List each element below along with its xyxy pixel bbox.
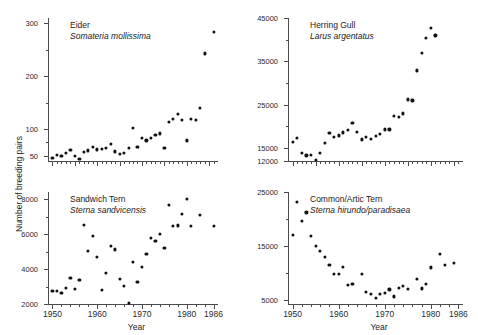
data-point xyxy=(185,197,188,200)
y-tick-minor xyxy=(46,252,48,253)
x-tick-minor xyxy=(449,162,450,164)
x-tick xyxy=(97,162,98,166)
x-tick-minor xyxy=(106,162,107,164)
x-tick-minor xyxy=(70,305,71,307)
x-tick-minor xyxy=(124,162,125,164)
data-point xyxy=(190,118,193,121)
data-point xyxy=(305,154,308,157)
x-tick xyxy=(454,162,455,166)
x-tick-minor xyxy=(440,162,441,164)
y-tick-minor xyxy=(46,142,48,143)
x-tick-minor xyxy=(348,305,349,307)
data-point xyxy=(199,213,202,216)
data-point xyxy=(420,287,423,290)
x-tick xyxy=(209,162,210,166)
x-tick-label: 1970 xyxy=(375,309,394,319)
x-tick-minor xyxy=(348,162,349,164)
data-point xyxy=(411,99,414,102)
data-point xyxy=(406,98,409,101)
data-point xyxy=(337,134,340,137)
x-tick-minor xyxy=(196,305,197,307)
data-point xyxy=(105,147,108,150)
data-point xyxy=(332,135,335,138)
data-point xyxy=(392,114,395,117)
data-point xyxy=(109,244,112,247)
data-point xyxy=(158,233,161,236)
x-tick-minor xyxy=(343,162,344,164)
data-point xyxy=(176,112,179,115)
data-point xyxy=(429,266,432,269)
panel-title-common-name: Herring Gull xyxy=(310,20,355,30)
y-tick-label: 12000 xyxy=(257,157,284,166)
data-point xyxy=(51,156,54,159)
x-tick xyxy=(52,162,53,166)
data-point xyxy=(145,139,148,142)
x-tick xyxy=(408,162,409,166)
x-tick-minor xyxy=(412,305,413,307)
data-point xyxy=(55,289,58,292)
data-point xyxy=(374,296,377,299)
x-tick-minor xyxy=(79,305,80,307)
x-tick-minor xyxy=(357,162,358,164)
x-tick-minor xyxy=(61,162,62,164)
x-tick xyxy=(142,162,143,166)
data-point xyxy=(100,147,103,150)
x-tick-minor xyxy=(440,305,441,307)
data-point xyxy=(96,256,99,259)
data-point xyxy=(406,287,409,290)
data-point xyxy=(203,52,206,55)
data-point xyxy=(154,239,157,242)
data-point xyxy=(64,151,67,154)
data-point xyxy=(60,291,63,294)
data-point xyxy=(122,151,125,154)
data-point xyxy=(443,263,446,266)
x-tick xyxy=(75,162,76,166)
y-tick-minor xyxy=(46,217,48,218)
x-tick-minor xyxy=(205,162,206,164)
x-tick-minor xyxy=(151,162,152,164)
x-tick-label: 1970 xyxy=(132,309,151,319)
data-point xyxy=(328,263,331,266)
data-point xyxy=(78,278,81,281)
y-tick-label: 200 xyxy=(25,72,44,81)
y-axis-title: Number of breeding pairs xyxy=(14,136,24,232)
data-point xyxy=(145,252,148,255)
y-tick xyxy=(284,61,288,62)
y-tick-label: 4000 xyxy=(21,265,44,274)
x-tick-minor xyxy=(320,305,321,307)
data-point xyxy=(300,219,303,222)
x-tick-minor xyxy=(334,162,335,164)
x-tick xyxy=(164,162,165,166)
x-tick-minor xyxy=(88,305,89,307)
data-point xyxy=(194,119,197,122)
y-tick-minor xyxy=(286,83,288,84)
data-point xyxy=(73,154,76,157)
x-tick-label: 1960 xyxy=(88,309,107,319)
data-point xyxy=(140,136,143,139)
panel-title-common-name: Eider xyxy=(70,20,90,30)
data-point xyxy=(100,288,103,291)
data-point xyxy=(172,118,175,121)
x-tick xyxy=(293,162,294,166)
panel-title-common-name: Sandwich Tern xyxy=(70,194,126,204)
x-tick-minor xyxy=(57,162,58,164)
x-tick-minor xyxy=(151,305,152,307)
data-point xyxy=(323,255,326,258)
data-point xyxy=(346,283,349,286)
data-point xyxy=(149,137,152,140)
panel-title-scientific-name: Sterna hirundo/paradisaea xyxy=(310,205,410,216)
y-tick-label: 15000 xyxy=(257,144,284,153)
data-point xyxy=(212,31,215,34)
data-point xyxy=(96,148,99,151)
data-point xyxy=(365,291,368,294)
data-point xyxy=(429,26,432,29)
y-tick-label: 15000 xyxy=(257,241,284,250)
x-tick-minor xyxy=(352,162,353,164)
y-axis-line xyxy=(48,18,49,161)
x-tick-minor xyxy=(124,305,125,307)
y-tick xyxy=(44,234,48,235)
data-point xyxy=(415,69,418,72)
y-tick-label: 5000 xyxy=(261,295,284,304)
data-point xyxy=(136,281,139,284)
data-point xyxy=(360,138,363,141)
